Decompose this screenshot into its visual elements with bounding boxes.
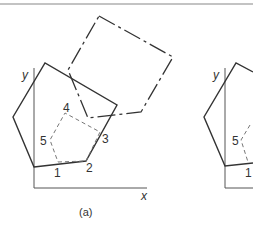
- solid-pentagon-b: [204, 63, 253, 166]
- dashed-inner-pentagon: [50, 113, 100, 162]
- figure-canvas: y x 1 2 3 4 5 (a) y 5 1: [0, 0, 253, 230]
- vertex-label-1: 1: [54, 166, 61, 180]
- dashed-inner-b: [241, 125, 250, 162]
- vertex-label-1-b: 1: [245, 166, 252, 180]
- panel-caption: (a): [79, 206, 92, 218]
- vertex-label-4: 4: [63, 101, 70, 115]
- vertex-label-5: 5: [40, 134, 47, 148]
- vertex-label-5-b: 5: [232, 134, 239, 148]
- solid-pentagon: [13, 63, 117, 167]
- vertex-label-3: 3: [102, 132, 109, 146]
- y-axis-label-b: y: [212, 68, 220, 82]
- x-axis-label: x: [140, 189, 148, 203]
- y-axis-label: y: [21, 68, 29, 82]
- translated-pentagon: [68, 16, 173, 118]
- panel-b: y 5 1: [204, 63, 253, 188]
- vertex-label-2: 2: [86, 161, 93, 175]
- panel-a: y x 1 2 3 4 5 (a): [13, 16, 173, 218]
